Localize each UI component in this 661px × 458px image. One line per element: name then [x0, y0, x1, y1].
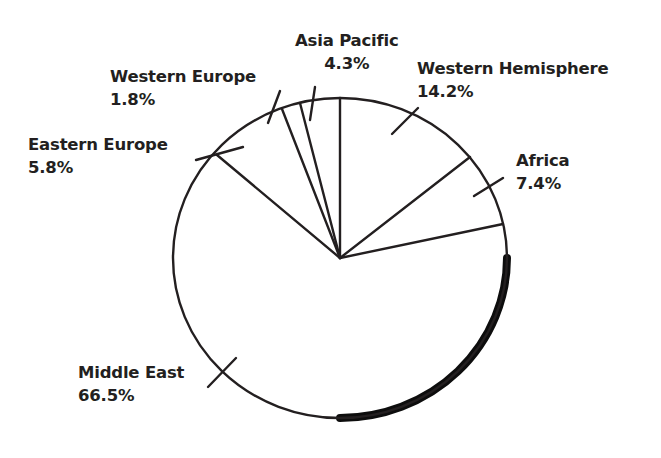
slice-label-western-europe: Western Europe 1.8%: [110, 66, 256, 112]
pie-leader-ticks: [196, 87, 503, 387]
slice-label-asia-pacific: Asia Pacific 4.3%: [295, 30, 399, 76]
slice-label-value: 14.2%: [417, 81, 608, 104]
slice-label-value: 66.5%: [78, 385, 184, 408]
slice-label-name: Eastern Europe: [28, 134, 168, 157]
divider-western-hemisphere-africa: [340, 157, 470, 258]
pie-chart: Asia Pacific 4.3% Western Hemisphere 14.…: [0, 0, 661, 458]
slice-label-middle-east: Middle East 66.5%: [78, 362, 184, 408]
slice-label-value: 7.4%: [516, 173, 569, 196]
slice-label-western-hemisphere: Western Hemisphere 14.2%: [417, 58, 608, 104]
pie-slice-dividers: [217, 98, 503, 258]
divider-middle-east-eastern-europe: [217, 155, 340, 258]
slice-label-value: 4.3%: [295, 53, 399, 76]
slice-label-value: 1.8%: [110, 89, 256, 112]
slice-label-value: 5.8%: [28, 157, 168, 180]
divider-western-europe-asia-pacific: [300, 103, 340, 258]
slice-label-name: Middle East: [78, 362, 184, 385]
tick-western-europe: [268, 91, 280, 123]
pie-shadow-arc: [340, 258, 507, 418]
slice-label-name: Western Hemisphere: [417, 58, 608, 81]
tick-asia-pacific: [310, 87, 315, 120]
slice-label-name: Asia Pacific: [295, 30, 399, 53]
slice-label-africa: Africa 7.4%: [516, 150, 569, 196]
tick-africa: [474, 178, 503, 196]
divider-eastern-europe-western-europe: [282, 109, 340, 258]
slice-label-name: Africa: [516, 150, 569, 173]
slice-label-eastern-europe: Eastern Europe 5.8%: [28, 134, 168, 180]
divider-africa-middle-east: [340, 224, 503, 258]
slice-label-name: Western Europe: [110, 66, 256, 89]
